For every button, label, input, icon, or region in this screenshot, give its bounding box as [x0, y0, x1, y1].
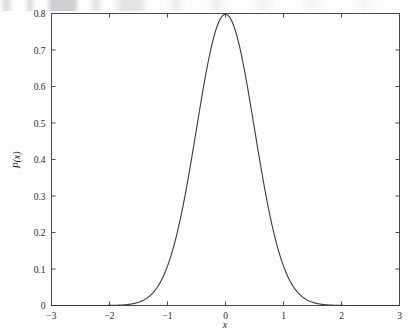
- x-tick-label: 3: [397, 311, 402, 321]
- y-tick-label: 0.3: [34, 192, 46, 202]
- y-tick-label: 0: [41, 301, 46, 311]
- y-tick-label: 0.8: [34, 9, 46, 19]
- y-tick-label: 0.7: [34, 46, 46, 56]
- x-tick-label: −2: [104, 311, 114, 321]
- y-tick-label: 0.4: [34, 155, 46, 165]
- x-axis-title: x: [222, 319, 228, 330]
- y-axis-title: P(x): [11, 151, 23, 170]
- x-axis-tick-marks: [52, 302, 400, 306]
- x-tick-label: 2: [339, 311, 344, 321]
- gaussian-distribution-chart: −3−2−10123 00.10.20.30.40.50.60.70.8 x P…: [0, 0, 413, 333]
- y-tick-label: 0.2: [34, 228, 46, 238]
- x-tick-label: 1: [281, 311, 286, 321]
- y-axis-tick-marks: [52, 14, 56, 306]
- y-tick-label: 0.5: [34, 119, 46, 129]
- x-tick-label: −1: [162, 311, 172, 321]
- x-tick-label: −3: [46, 311, 56, 321]
- y-axis-tick-marks-right: [396, 14, 400, 306]
- plot-frame: [52, 14, 400, 306]
- y-tick-label: 0.1: [34, 265, 46, 275]
- y-axis-tick-labels: 00.10.20.30.40.50.60.70.8: [34, 9, 46, 311]
- figure-container: −3−2−10123 00.10.20.30.40.50.60.70.8 x P…: [0, 0, 413, 333]
- y-tick-label: 0.6: [34, 82, 46, 92]
- gaussian-curve: [52, 14, 400, 305]
